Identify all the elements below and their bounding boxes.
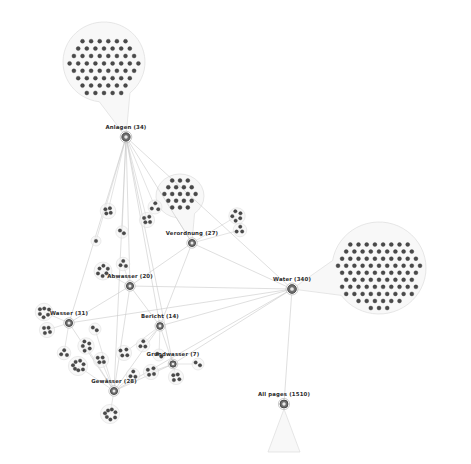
graph-node xyxy=(178,179,182,183)
graph-node xyxy=(96,356,100,360)
graph-node xyxy=(406,257,410,261)
graph-node xyxy=(47,308,51,312)
graph-node xyxy=(174,199,178,203)
graph-node xyxy=(128,47,132,51)
graph-node xyxy=(38,307,42,311)
graph-node xyxy=(369,250,373,254)
hub-node-grundwasser[interactable] xyxy=(168,359,178,369)
graph-node xyxy=(85,76,89,80)
graph-node xyxy=(365,257,369,261)
graph-node xyxy=(369,306,373,310)
graph-node xyxy=(103,411,107,415)
graph-node xyxy=(235,230,239,234)
graph-node xyxy=(82,363,86,367)
graph-node xyxy=(119,61,123,65)
graph-node xyxy=(68,61,72,65)
graph-node xyxy=(48,330,52,334)
graph-node xyxy=(72,69,76,73)
graph-edge xyxy=(130,286,160,326)
graph-node xyxy=(142,340,146,344)
hub-node-wasser[interactable] xyxy=(64,318,74,328)
graph-node xyxy=(121,354,125,358)
graph-node xyxy=(389,285,393,289)
graph-node xyxy=(156,207,160,211)
graph-node xyxy=(186,192,190,196)
graph-node xyxy=(357,243,361,247)
graph-node xyxy=(162,192,166,196)
graph-node xyxy=(73,367,77,371)
graph-node xyxy=(88,347,92,351)
graph-node xyxy=(182,199,186,203)
graph-node xyxy=(178,192,182,196)
mini-cluster-hull xyxy=(39,322,54,337)
graph-node xyxy=(357,257,361,261)
graph-node xyxy=(344,264,348,268)
graph-node xyxy=(102,61,106,65)
hub-node-core xyxy=(159,325,162,328)
graph-node xyxy=(373,285,377,289)
graph-node xyxy=(77,369,81,373)
graph-node xyxy=(134,375,138,379)
graph-node xyxy=(124,69,128,73)
graph-node xyxy=(377,292,381,296)
graph-node xyxy=(152,367,156,371)
graph-node xyxy=(389,271,393,275)
network-graph-canvas[interactable]: Anlagen (34)Verordnung (27)Water (340)Ab… xyxy=(0,0,471,464)
graph-node xyxy=(115,39,119,43)
graph-node xyxy=(340,271,344,275)
graph-node xyxy=(198,364,202,368)
graph-node xyxy=(178,378,182,382)
graph-node xyxy=(172,373,176,377)
hub-node-gewaesser[interactable] xyxy=(109,386,119,396)
graph-edge xyxy=(192,243,292,289)
graph-node xyxy=(105,415,109,419)
graph-node xyxy=(352,264,356,268)
mini-cluster-hull xyxy=(100,203,116,219)
graph-node xyxy=(406,271,410,275)
mini-cluster-hull xyxy=(116,345,131,360)
graph-node xyxy=(150,207,154,211)
graph-node xyxy=(119,47,123,51)
graph-node xyxy=(377,306,381,310)
graph-node xyxy=(106,409,110,413)
hub-node-abwasser[interactable] xyxy=(125,281,135,291)
graph-node xyxy=(385,278,389,282)
graph-node xyxy=(170,205,174,209)
graph-node xyxy=(94,239,98,243)
graph-node xyxy=(85,47,89,51)
graph-node xyxy=(186,205,190,209)
hub-node-verordnung[interactable] xyxy=(187,238,197,248)
graph-node xyxy=(172,378,176,382)
hub-node-bericht[interactable] xyxy=(155,321,165,331)
mini-cluster-hull xyxy=(89,323,101,335)
graph-node xyxy=(398,243,402,247)
graph-node xyxy=(108,206,112,210)
mini-cluster-hull xyxy=(153,349,165,361)
graph-node xyxy=(365,243,369,247)
graph-node xyxy=(418,264,422,268)
graph-edge xyxy=(160,289,292,326)
graph-node xyxy=(101,356,105,360)
graph-node xyxy=(410,250,414,254)
hub-node-allpages[interactable] xyxy=(278,398,289,409)
hub-node-anlagen[interactable] xyxy=(120,131,132,143)
graph-node xyxy=(89,39,93,43)
graph-node xyxy=(402,250,406,254)
graph-node xyxy=(104,207,108,211)
graph-node xyxy=(385,292,389,296)
hub-node-core xyxy=(190,241,193,244)
graph-node xyxy=(402,278,406,282)
graph-node xyxy=(373,257,377,261)
graph-node xyxy=(174,185,178,189)
graph-node xyxy=(365,299,369,303)
graph-node xyxy=(78,359,82,363)
graph-node xyxy=(190,199,194,203)
hub-node-water[interactable] xyxy=(286,283,298,295)
graph-node xyxy=(147,373,151,377)
graph-node xyxy=(389,257,393,261)
graph-node xyxy=(72,54,76,58)
graph-node xyxy=(373,243,377,247)
graph-edge xyxy=(284,289,292,404)
graph-node xyxy=(336,264,340,268)
graph-node xyxy=(121,259,125,263)
